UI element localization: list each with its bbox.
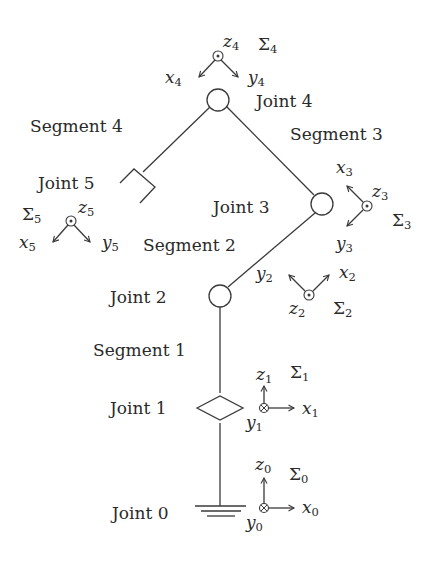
svg-text:x0: x0 bbox=[302, 497, 319, 519]
svg-text:y2: y2 bbox=[255, 263, 273, 285]
svg-text:y5: y5 bbox=[101, 232, 119, 254]
segment-4-label: Segment 4 bbox=[30, 116, 123, 136]
svg-text:z4: z4 bbox=[222, 31, 239, 53]
segment-4-line bbox=[143, 106, 211, 172]
frame-3: z3 Σ3 x3 y3 bbox=[335, 157, 411, 255]
segment-2-label: Segment 2 bbox=[143, 235, 236, 255]
svg-text:z5: z5 bbox=[77, 197, 94, 219]
svg-text:y4: y4 bbox=[247, 67, 265, 89]
svg-text:y1: y1 bbox=[245, 412, 263, 434]
joint-2-shape bbox=[209, 285, 231, 307]
joint-3-shape bbox=[311, 193, 333, 215]
joint-0-ground bbox=[195, 506, 246, 516]
joint-5-label: Joint 5 bbox=[36, 173, 95, 193]
svg-text:Σ4: Σ4 bbox=[258, 34, 277, 56]
frame-4: z4 Σ4 x4 y4 bbox=[165, 31, 277, 89]
segment-3-label: Segment 3 bbox=[290, 124, 383, 144]
segment-1-label: Segment 1 bbox=[93, 340, 186, 360]
svg-text:Σ2: Σ2 bbox=[333, 298, 352, 320]
svg-text:x5: x5 bbox=[19, 232, 36, 254]
joint-5-gripper bbox=[120, 169, 155, 203]
joint-4-shape bbox=[207, 89, 229, 111]
frame-1: z1 Σ1 x1 y1 bbox=[245, 362, 319, 434]
svg-text:Σ0: Σ0 bbox=[289, 464, 308, 486]
joint-2-label: Joint 2 bbox=[108, 287, 167, 307]
svg-text:Σ3: Σ3 bbox=[392, 210, 411, 232]
svg-text:Σ1: Σ1 bbox=[290, 362, 309, 384]
svg-text:y0: y0 bbox=[245, 512, 263, 534]
frame-0: z0 Σ0 x0 y0 bbox=[245, 454, 319, 534]
svg-text:z2: z2 bbox=[288, 298, 305, 320]
frame-5: z5 Σ5 x5 y5 bbox=[19, 197, 119, 254]
segment-3-line bbox=[226, 106, 314, 195]
svg-text:x1: x1 bbox=[302, 398, 319, 420]
svg-text:z1: z1 bbox=[255, 364, 272, 386]
svg-text:x2: x2 bbox=[339, 262, 356, 284]
svg-text:y3: y3 bbox=[335, 233, 353, 255]
robot-arm-diagram: Joint 4 Joint 3 Joint 2 Joint 1 Joint 0 … bbox=[0, 0, 435, 562]
svg-text:x3: x3 bbox=[336, 157, 353, 179]
joint-4-label: Joint 4 bbox=[254, 91, 313, 111]
svg-text:z3: z3 bbox=[371, 181, 388, 203]
joint-1-shape bbox=[197, 396, 243, 420]
joint-1-label: Joint 1 bbox=[108, 398, 167, 418]
svg-text:z0: z0 bbox=[254, 454, 271, 476]
svg-text:x4: x4 bbox=[165, 67, 182, 89]
joint-3-label: Joint 3 bbox=[211, 197, 270, 217]
joint-0-label: Joint 0 bbox=[110, 503, 169, 523]
frame-2: z2 Σ2 x2 y2 bbox=[255, 262, 356, 320]
svg-text:Σ5: Σ5 bbox=[22, 204, 41, 226]
